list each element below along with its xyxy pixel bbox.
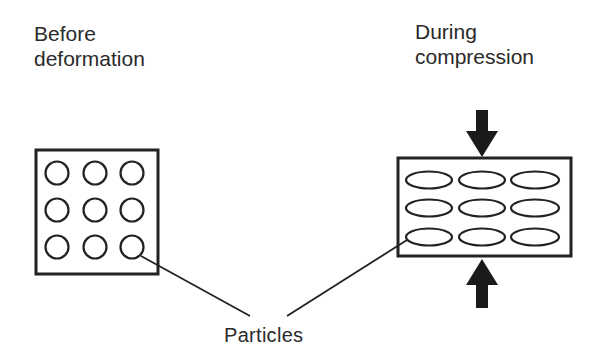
down-arrow-icon — [466, 110, 498, 157]
deformation-diagram — [0, 0, 613, 364]
particle-circle — [121, 236, 144, 259]
particle-ellipse — [459, 229, 505, 246]
compressed-specimen — [398, 158, 571, 256]
particle-ellipse — [406, 172, 452, 189]
particle-circle — [84, 199, 107, 222]
particle-ellipse — [511, 200, 559, 217]
particle-ellipse — [459, 172, 505, 189]
particle-ellipse — [511, 172, 559, 189]
particle-circle — [84, 162, 107, 185]
circular-particles — [46, 162, 144, 259]
particle-circle — [46, 199, 69, 222]
particle-ellipse — [406, 229, 452, 246]
particle-circle — [46, 162, 69, 185]
elliptical-particles — [406, 172, 559, 246]
particle-ellipse — [406, 200, 452, 217]
up-arrow-icon — [466, 259, 498, 308]
particle-circle — [121, 199, 144, 222]
particle-ellipse — [459, 200, 505, 217]
particle-circle — [121, 162, 144, 185]
particle-ellipse — [511, 229, 559, 246]
particle-circle — [46, 236, 69, 259]
particle-circle — [84, 236, 107, 259]
undeformed-specimen — [36, 150, 158, 274]
callout-line-right — [287, 240, 407, 316]
particles-callout-label: Particles — [224, 323, 303, 348]
callout-line-left — [141, 256, 250, 316]
